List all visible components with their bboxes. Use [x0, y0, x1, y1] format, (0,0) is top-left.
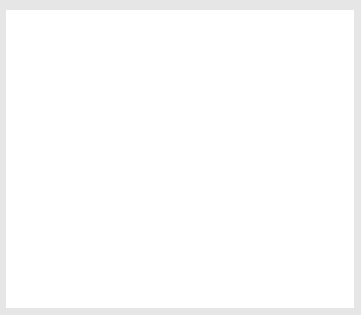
- coordinate-diagram: [0, 0, 361, 315]
